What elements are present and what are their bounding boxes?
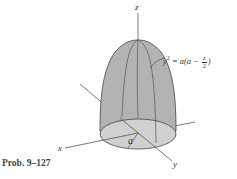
z-axis-label: z	[135, 3, 139, 12]
eq-fraction: z2	[202, 55, 207, 69]
eq-exp: 2	[167, 55, 170, 61]
x-axis-label: x	[58, 144, 62, 153]
surface-equation: y2 = a(a − z2)	[163, 55, 210, 69]
eq-rhs-suffix: )	[208, 56, 211, 66]
paraboloid-diagram	[0, 0, 237, 179]
base-ellipse	[100, 119, 176, 149]
y-axis-label: y	[173, 160, 177, 169]
eq-frac-den: 2	[202, 63, 207, 70]
eq-rhs-prefix: = a(a −	[172, 56, 199, 66]
figure-caption: Prob. 9–127	[2, 158, 50, 168]
radius-label: a	[128, 136, 133, 146]
